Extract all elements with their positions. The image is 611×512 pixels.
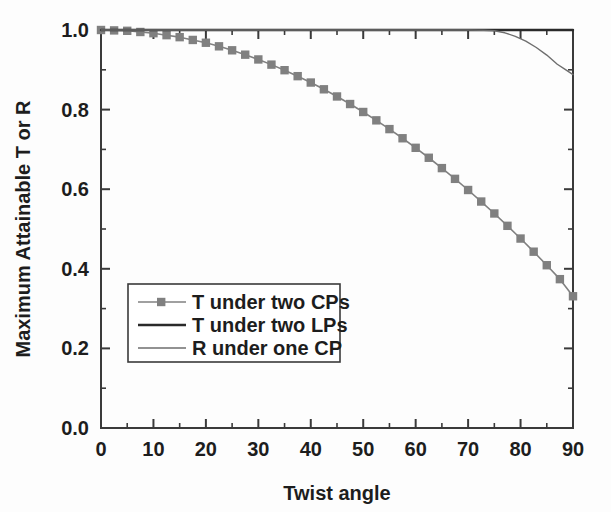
data-point-marker [202,39,210,47]
legend-label: R under one CP [192,337,342,359]
data-point-marker [451,175,459,183]
x-tick-label: 10 [142,438,164,460]
chart-legend: T under two CPsT under two LPsR under on… [128,284,350,362]
x-tick-label: 0 [95,438,106,460]
data-point-marker [372,116,380,124]
data-point-marker [267,60,275,68]
x-tick-label: 70 [457,438,479,460]
x-tick-label: 50 [352,438,374,460]
legend-label: T under two LPs [192,314,348,336]
data-point-marker [333,92,341,100]
data-point-marker [346,100,354,108]
data-point-marker [569,292,577,300]
data-point-marker [280,66,288,74]
x-tick-label: 20 [195,438,217,460]
data-point-marker [490,209,498,217]
data-point-marker [320,85,328,93]
x-tick-label: 60 [405,438,427,460]
x-tick-label: 30 [247,438,269,460]
data-point-marker [503,222,511,230]
data-point-marker [477,197,485,205]
data-point-marker [215,42,223,50]
data-point-marker [385,125,393,133]
chart-canvas: 01020304050607080900.00.20.40.60.81.0 Tw… [0,0,611,512]
data-point-marker [398,134,406,142]
data-point-marker [175,33,183,41]
data-point-marker [228,46,236,54]
data-point-marker [529,247,537,255]
data-point-marker [411,144,419,152]
x-axis-title: Twist angle [283,482,390,504]
chart-figure: 01020304050607080900.00.20.40.60.81.0 Tw… [0,0,611,512]
chart-background [0,0,611,512]
x-tick-label: 80 [509,438,531,460]
data-point-marker [254,55,262,63]
data-point-marker [241,50,249,58]
legend-label: T under two CPs [192,291,350,313]
data-point-marker [162,31,170,39]
y-tick-label: 0.2 [61,337,89,359]
data-point-marker [189,36,197,44]
y-tick-label: 0.8 [61,99,89,121]
data-point-marker [543,261,551,269]
x-tick-label: 40 [300,438,322,460]
y-axis-title: Maximum Attainable T or R [12,100,34,358]
data-point-marker [307,78,315,86]
y-tick-label: 0.4 [61,258,90,280]
data-point-marker [293,72,301,80]
y-tick-label: 0.0 [61,417,89,439]
data-point-marker [516,234,524,242]
data-point-marker [556,275,564,283]
data-point-marker [464,186,472,194]
data-point-marker [425,154,433,162]
x-tick-label: 90 [562,438,584,460]
legend-marker-swatch [157,298,165,306]
data-point-marker [438,164,446,172]
y-tick-label: 1.0 [61,19,89,41]
data-point-marker [359,108,367,116]
y-tick-label: 0.6 [61,178,89,200]
